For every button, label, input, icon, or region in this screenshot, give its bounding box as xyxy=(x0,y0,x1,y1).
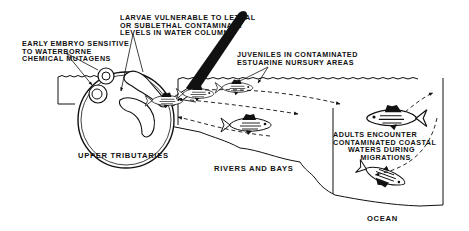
adult-fish-3 xyxy=(354,157,408,194)
region-ocean: OCEAN xyxy=(367,215,398,223)
larvae-annotation: LARVAE VULNERABLE TO LETHAL OR SUBLETHAL… xyxy=(120,14,256,37)
arrow-juveniles-downstream xyxy=(190,100,298,114)
juvenile-fish-3 xyxy=(215,80,253,96)
region-rivers-and-bays: RIVERS AND BAYS xyxy=(214,165,294,173)
adults-annotation: ADULTS ENCOUNTER CONTAMINATED COASTAL WA… xyxy=(333,131,436,161)
adult-fish-1 xyxy=(367,105,427,130)
juveniles-annotation: JUVENILES IN CONTAMINATED ESTUARINE NURS… xyxy=(237,51,358,66)
early-embryo-annotation: EARLY EMBRYO SENSITIVE TO WATERBORNE CHE… xyxy=(22,40,129,63)
arrow-offshore xyxy=(405,93,433,112)
arrow-to-sea xyxy=(205,90,340,104)
adult-fish-2 xyxy=(221,114,271,135)
region-upper-tributaries: UPPER TRIBUTARIES xyxy=(78,152,169,160)
